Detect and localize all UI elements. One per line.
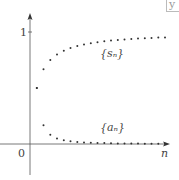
a-series-label: {aₙ} <box>100 121 125 134</box>
data-point <box>103 40 105 42</box>
data-point <box>63 50 65 52</box>
data-point <box>97 142 99 144</box>
data-point <box>117 39 119 41</box>
data-point <box>43 68 45 70</box>
s-series-points <box>36 36 166 89</box>
data-point <box>56 137 58 139</box>
data-point <box>157 37 159 39</box>
a-series-points <box>36 87 166 145</box>
data-point <box>70 47 72 49</box>
data-point <box>76 45 78 47</box>
data-point <box>137 38 139 40</box>
data-point <box>144 37 146 39</box>
data-point <box>36 87 38 89</box>
s-series-label: {sₙ} <box>100 47 124 60</box>
data-point <box>137 143 139 145</box>
data-point <box>70 140 72 142</box>
x-axis-label: n <box>161 147 168 160</box>
data-point <box>49 59 51 61</box>
data-point <box>83 141 85 143</box>
data-point <box>130 143 132 145</box>
data-point <box>63 139 65 141</box>
data-point <box>56 53 58 55</box>
data-point <box>151 143 153 145</box>
data-point <box>110 40 112 42</box>
data-point <box>157 143 159 145</box>
data-point <box>117 142 119 144</box>
data-point <box>103 142 105 144</box>
data-point <box>97 41 99 43</box>
data-point <box>124 142 126 144</box>
data-point <box>130 38 132 40</box>
data-point <box>49 134 51 136</box>
data-point <box>43 124 45 126</box>
data-point <box>76 141 78 143</box>
data-point <box>124 39 126 41</box>
data-point <box>144 143 146 145</box>
data-point <box>151 37 153 39</box>
data-point <box>90 42 92 44</box>
data-point <box>83 43 85 45</box>
corner-glyph-box: y <box>166 0 179 12</box>
data-point <box>164 143 166 145</box>
data-point <box>110 142 112 144</box>
sequence-chart: 1 0 n {sₙ} {aₙ} <box>0 0 179 180</box>
origin-label: 0 <box>18 147 25 160</box>
data-point <box>90 142 92 144</box>
data-point <box>164 36 166 38</box>
y-tick-label-one: 1 <box>20 26 27 39</box>
